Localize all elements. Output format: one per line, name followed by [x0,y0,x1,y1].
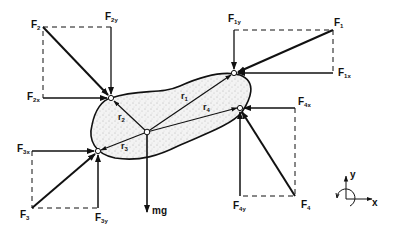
label-r4: r4 [203,103,210,113]
label-F3x: F3x [17,144,30,155]
label-F4y: F4y [233,201,246,212]
label-weight: mg [152,206,167,216]
point-2 [108,95,113,100]
point-4 [237,105,242,110]
label-r3: r3 [121,142,128,152]
label-F2y: F2y [105,12,118,23]
label-F3: F3 [20,210,29,221]
F2-arrow [43,27,108,95]
label-F4x: F4x [298,97,311,108]
label-F4: F4 [301,200,310,211]
label-r1: r1 [181,92,188,102]
F3-arrow [32,154,95,208]
coordinate-axes [336,176,372,206]
label-F1: F1 [334,18,343,29]
point-3 [95,148,100,153]
center-of-gravity [144,129,150,135]
label-F1x: F1x [338,68,351,79]
free-body-diagram [0,0,393,234]
F1-arrow [238,30,333,72]
point-1 [231,70,236,75]
label-F2x: F2x [27,92,40,103]
label-F2: F2 [31,20,40,31]
F4-arrow [242,112,295,196]
label-x-axis: x [372,198,378,208]
label-F3y: F3y [95,213,108,224]
label-r2: r2 [118,113,125,123]
label-y-axis: y [350,170,356,180]
label-F1y: F1y [228,14,241,25]
